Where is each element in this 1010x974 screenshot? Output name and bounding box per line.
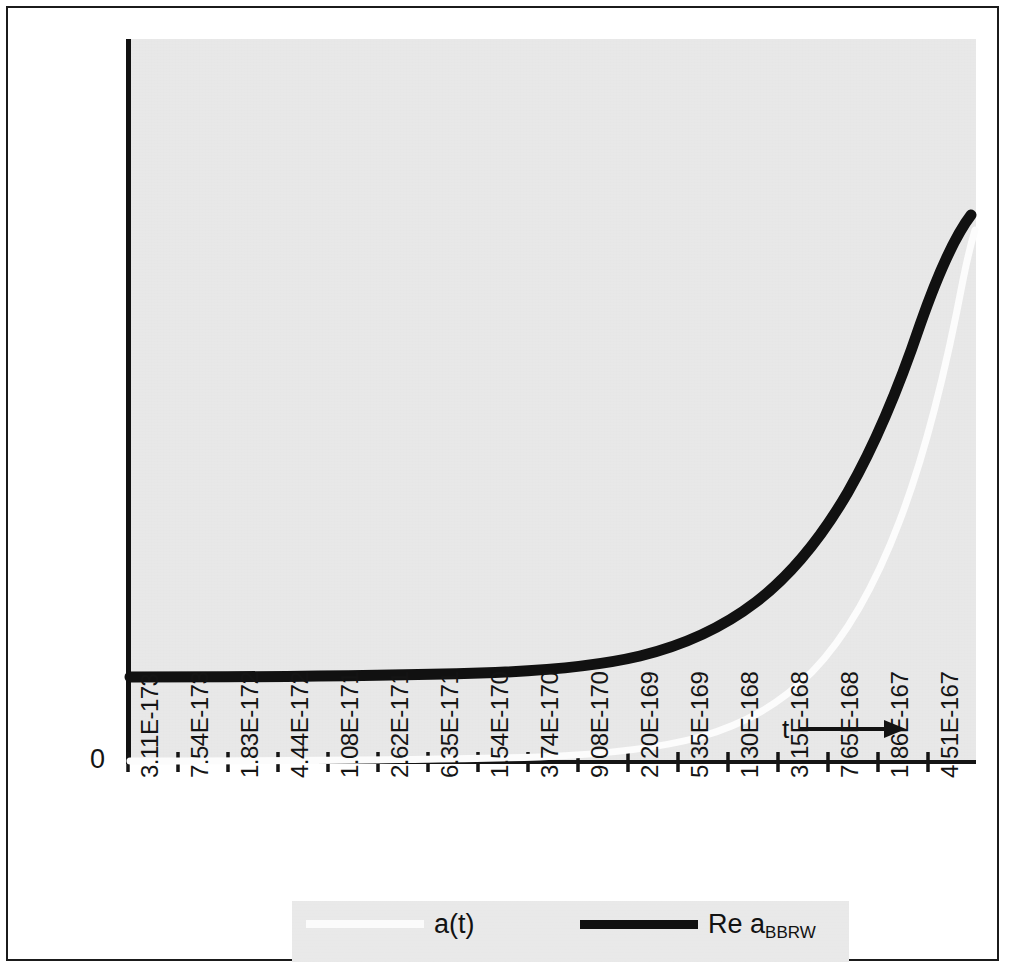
x-tick-label: 4.44E-172 — [288, 672, 312, 778]
legend-label: Re aBBRW — [708, 911, 816, 938]
x-tick-label: 2.20E-169 — [638, 672, 662, 778]
series-re-a-bbrw-curve — [130, 215, 971, 677]
x-axis-label-annotation: t — [782, 716, 908, 742]
x-tick-label: 3.11E-173 — [138, 674, 162, 778]
legend-label-subscript: BBRW — [765, 923, 816, 942]
x-axis-label-text: t — [782, 716, 789, 742]
legend-label-main: Re a — [708, 909, 765, 939]
x-tick-label: 7.54E-173 — [188, 672, 212, 778]
legend-item-a-t: a(t) — [306, 909, 475, 939]
x-tick-label: 6.35E-171 — [438, 672, 462, 778]
x-tick-label: 1.54E-170 — [488, 672, 512, 778]
x-tick-label: 5.35E-169 — [688, 672, 712, 778]
x-tick-label: 1.08E-171 — [338, 672, 362, 778]
x-tick-label: 9.08E-170 — [588, 672, 612, 778]
y-axis-origin-label: 0 — [90, 746, 105, 773]
legend-item-re-a-bbrw: Re aBBRW — [580, 909, 816, 939]
chart-legend: a(t) Re aBBRW — [292, 901, 849, 962]
legend-swatch-line-icon — [306, 920, 424, 928]
chart-curves — [0, 0, 1010, 974]
legend-label: a(t) — [434, 911, 475, 938]
chart-figure: 0 3.11E-173 7.54E-173 1.83E-172 4.44E-17… — [0, 0, 1010, 974]
right-arrow-icon — [798, 716, 908, 742]
legend-swatch-line-icon — [580, 920, 698, 929]
x-tick-label: 4.51E-167 — [938, 672, 962, 778]
x-tick-label: 1.83E-172 — [238, 672, 262, 778]
x-tick-label: 1.30E-168 — [738, 672, 762, 778]
x-tick-label: 3.74E-170 — [538, 672, 562, 778]
x-tick-label: 2.62E-171 — [388, 672, 412, 778]
